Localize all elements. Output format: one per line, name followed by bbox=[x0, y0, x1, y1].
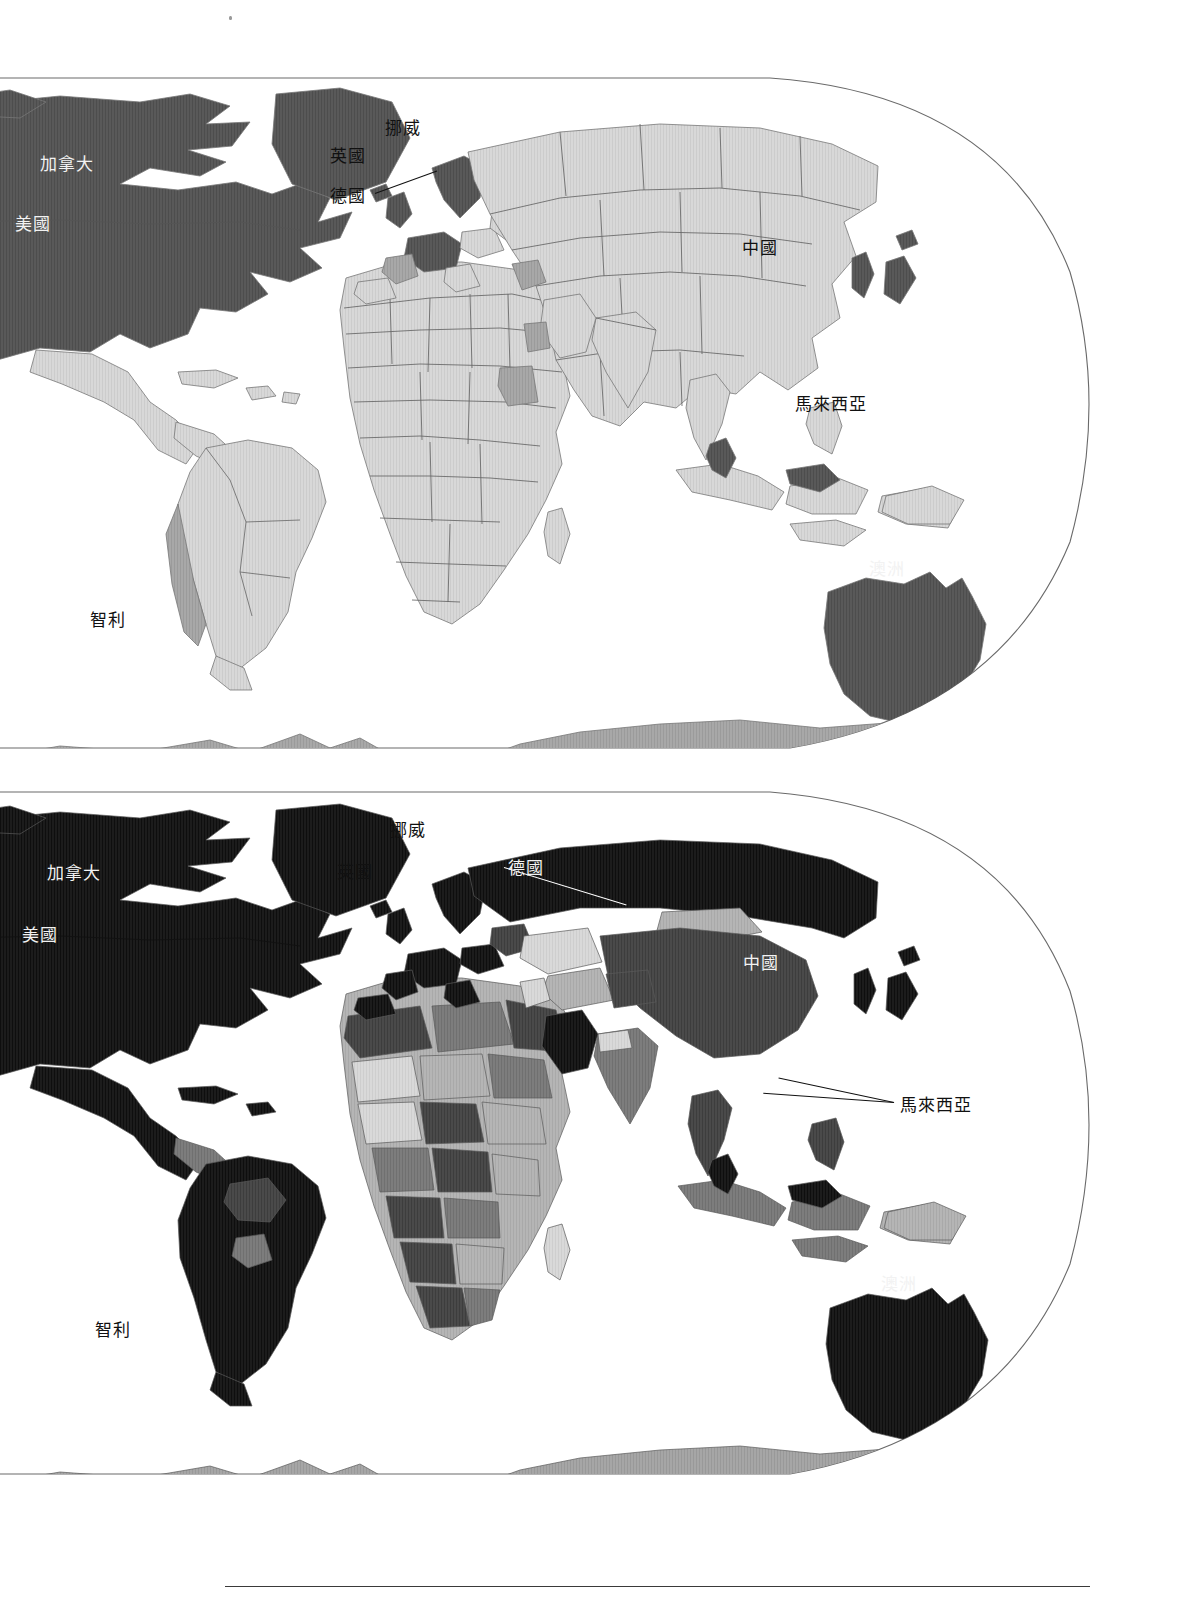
map-label-malaysia: 馬來西亞 bbox=[900, 1097, 972, 1114]
footer-rule bbox=[225, 1586, 1090, 1587]
map-label-malaysia: 馬來西亞 bbox=[795, 396, 867, 413]
map-label-australia: 澳洲 bbox=[869, 561, 905, 578]
map-label-australia: 澳洲 bbox=[881, 1276, 917, 1293]
map-label-uk: 英國 bbox=[337, 864, 373, 881]
map-label-usa: 美國 bbox=[22, 927, 58, 944]
map-label-chile: 智利 bbox=[95, 1322, 131, 1339]
lower-world-map bbox=[0, 786, 1110, 1498]
map-label-germany: 德國 bbox=[330, 188, 366, 205]
map-label-canada: 加拿大 bbox=[47, 865, 101, 882]
page-speck bbox=[229, 16, 232, 20]
figure-page: 加拿大美國挪威英國德國中國馬來西亞澳洲智利加拿大美國挪威英國德國中國馬來西亞澳洲… bbox=[0, 0, 1191, 1600]
map-label-uk: 英國 bbox=[330, 148, 366, 165]
upper-world-map bbox=[0, 72, 1110, 772]
map-label-china: 中國 bbox=[742, 240, 778, 257]
map-label-china: 中國 bbox=[743, 955, 779, 972]
map-label-norway: 挪威 bbox=[390, 822, 426, 839]
map-label-usa: 美國 bbox=[15, 216, 51, 233]
map-label-norway: 挪威 bbox=[385, 120, 421, 137]
map-label-canada: 加拿大 bbox=[40, 156, 94, 173]
map-label-chile: 智利 bbox=[90, 612, 126, 629]
